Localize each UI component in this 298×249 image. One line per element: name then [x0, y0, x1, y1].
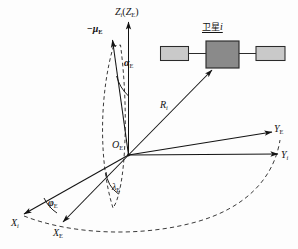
y-earthfixed-axis-label: YE: [274, 124, 283, 134]
range-vector-label: Ri: [160, 100, 168, 110]
y-earthfixed-axis-line: [129, 132, 273, 155]
satellite-label-cjk: 卫星: [202, 22, 220, 32]
y-inertial-label-sub: i: [287, 154, 289, 161]
satellite-label: 卫星i: [202, 22, 223, 32]
range-vector-line: [129, 70, 213, 155]
x-earthfixed-axis-label: XE: [53, 228, 63, 238]
x-earthfixed-label-sub: E: [59, 232, 63, 239]
satellite-solar-panel-left: [161, 47, 189, 61]
origin-label: OE: [112, 140, 123, 150]
mu-label-sub: E: [98, 28, 102, 35]
satellite-body: [206, 41, 239, 68]
z-axis-label-main: Z: [115, 6, 121, 17]
alpha-label-main: α: [124, 57, 130, 68]
diagram-canvas: [0, 0, 298, 249]
lambda-angle-label: λE: [112, 182, 120, 192]
y-earthfixed-label-main: Y: [274, 123, 280, 134]
satellite-label-index: i: [220, 21, 223, 32]
y-inertial-label-main: Y: [281, 149, 287, 160]
y-inertial-axis-line: [129, 154, 279, 155]
z-axis-label-paren-sub: E: [131, 11, 135, 18]
z-axis-label: Zi(ZE): [115, 7, 139, 17]
range-label-sub: i: [166, 104, 168, 111]
coordinate-system-figure: Zi(ZE) −μE 卫星i αE Ri OE YE Yi λE φE Xi X…: [0, 0, 298, 249]
phi-label-sub: E: [54, 202, 58, 209]
alpha-angle-label: αE: [124, 58, 133, 68]
x-inertial-label-sub: i: [17, 222, 19, 229]
phi-label-main: φ: [48, 197, 54, 208]
y-inertial-axis-label: Yi: [281, 150, 288, 160]
origin-point: [127, 154, 130, 157]
alpha-label-sub: E: [130, 62, 134, 69]
y-earthfixed-label-sub: E: [280, 128, 284, 135]
x-inertial-axis-label: Xi: [11, 218, 19, 228]
satellite-solar-panel-right: [256, 47, 285, 61]
origin-label-sub: E: [119, 144, 123, 151]
phi-angle-label: φE: [48, 198, 58, 208]
z-axis-label-close-paren: ): [135, 6, 138, 17]
mu-vector-label: −μE: [87, 24, 103, 34]
lambda-label-sub: E: [116, 186, 120, 193]
